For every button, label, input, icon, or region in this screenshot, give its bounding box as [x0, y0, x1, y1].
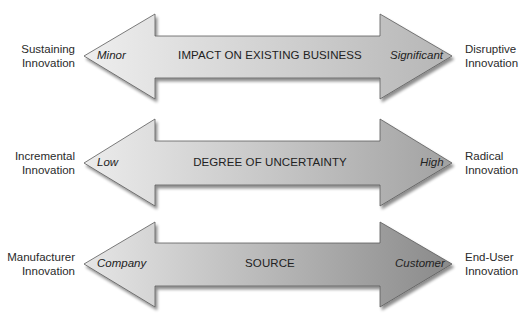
- axis-title-impact: IMPACT ON EXISTING BUSINESS: [160, 49, 380, 61]
- label-line: Sustaining: [0, 42, 75, 56]
- label-disruptive-innovation: Disruptive Innovation: [465, 42, 530, 70]
- label-radical-innovation: Radical Innovation: [465, 149, 530, 177]
- end-label-low: Low: [97, 156, 118, 168]
- label-line: Manufacturer: [0, 250, 75, 264]
- label-line: Disruptive: [465, 42, 530, 56]
- end-label-minor: Minor: [97, 49, 126, 61]
- label-manufacturer-innovation: Manufacturer Innovation: [0, 250, 75, 278]
- end-label-high: High: [420, 156, 444, 168]
- end-label-significant: Significant: [390, 49, 443, 61]
- label-line: End-User: [465, 250, 530, 264]
- label-line: Innovation: [0, 264, 75, 278]
- label-line: Innovation: [465, 264, 530, 278]
- axis-title-uncertainty: DEGREE OF UNCERTAINTY: [160, 156, 380, 168]
- label-line: Radical: [465, 149, 530, 163]
- label-incremental-innovation: Incremental Innovation: [0, 149, 75, 177]
- end-label-company: Company: [97, 257, 146, 269]
- label-sustaining-innovation: Sustaining Innovation: [0, 42, 75, 70]
- label-line: Innovation: [0, 56, 75, 70]
- label-line: Innovation: [465, 56, 530, 70]
- label-end-user-innovation: End-User Innovation: [465, 250, 530, 278]
- axis-title-source: SOURCE: [160, 257, 380, 269]
- label-line: Innovation: [465, 163, 530, 177]
- label-line: Incremental: [0, 149, 75, 163]
- end-label-customer: Customer: [395, 257, 445, 269]
- label-line: Innovation: [0, 163, 75, 177]
